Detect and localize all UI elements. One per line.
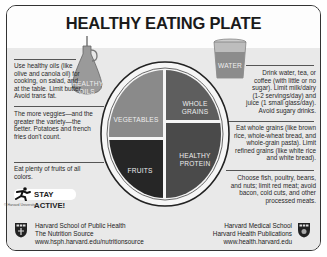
page-title: HEALTHY EATING PLATE [7,14,320,33]
hsph-link[interactable]: www.hsph.harvard.edu/nutritionsource [35,238,144,246]
health-harvard-link[interactable]: www.health.harvard.edu [213,238,292,246]
running-person-icon [14,187,32,201]
harvard-medical-shield-icon [297,222,311,238]
fruits-text: Eat plenty of fruits of all colors. [14,165,94,180]
divider [14,162,104,163]
protein-text: Choose fish, poultry, beans, and nuts; l… [228,174,316,204]
grains-text: Eat whole grains (like brown rice, whole… [228,124,316,162]
whole-grains-section: WHOLEGRAINS [172,100,218,116]
water-text: Drink water, tea, or coffee (with little… [244,69,316,115]
divider [14,106,104,107]
plate-diagram [99,58,231,208]
divider [226,170,314,171]
oils-text: Use healthy oils (like olive and canola … [14,62,84,100]
footer-left: Harvard School of Public Health The Nutr… [35,222,144,245]
vegetables-section: VEGETABLES [110,116,162,124]
fruits-section: FRUITS [118,167,162,175]
veggies-text: The more veggies—and the greater the var… [14,110,96,140]
harvard-shield-icon [14,222,28,238]
copyright: © Harvard University [4,203,35,207]
divider [14,59,76,60]
footer-right: Harvard Medical School Harvard Health Pu… [213,222,292,245]
healthy-protein-section: HEALTHYPROTEIN [172,152,218,168]
divider [246,65,314,66]
header: HEALTHY EATING PLATE [7,6,320,48]
